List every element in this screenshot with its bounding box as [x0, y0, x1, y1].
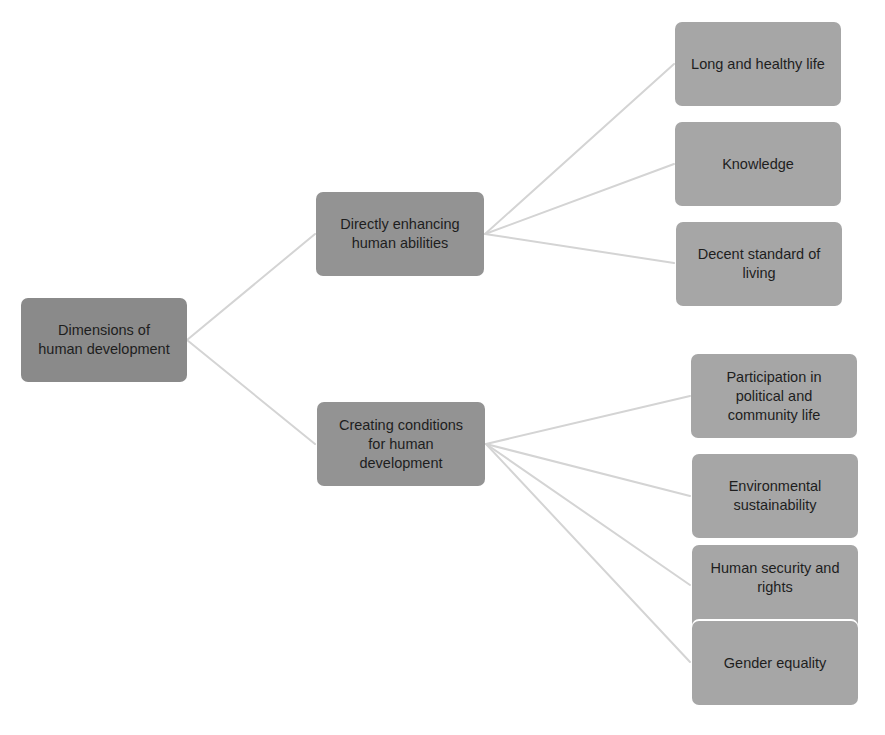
- root-node-label: Dimensions of human development: [38, 321, 169, 359]
- connector-branch-1-to-leaf-3: [485, 234, 674, 263]
- connector-branch-2-to-leaf-3: [486, 444, 690, 585]
- root-node: Dimensions of human development: [21, 298, 187, 382]
- leaf-node-decent-standard-of-living: Decent standard of living: [676, 222, 842, 306]
- connector-branch-2-to-leaf-1: [486, 396, 690, 444]
- leaf-node-label: Participation in political and community…: [726, 368, 821, 425]
- leaf-node-gender-equality: Gender equality: [692, 621, 858, 705]
- connector-root-to-branch-1: [187, 234, 315, 340]
- hierarchy-diagram: Dimensions of human development Directly…: [0, 0, 885, 735]
- leaf-node-label: Knowledge: [722, 155, 794, 174]
- connector-branch-1-to-leaf-1: [485, 64, 674, 234]
- connector-branch-1-to-leaf-2: [485, 164, 674, 234]
- connector-branch-2-to-leaf-2: [486, 444, 690, 496]
- leaf-node-participation: Participation in political and community…: [691, 354, 857, 438]
- leaf-node-human-security-rights: Human security and rights: [692, 545, 858, 629]
- leaf-node-label: Environmental sustainability: [729, 477, 822, 515]
- branch-node-label: Creating conditions for human developmen…: [339, 416, 463, 473]
- leaf-node-knowledge: Knowledge: [675, 122, 841, 206]
- leaf-node-label: Human security and rights: [711, 559, 840, 597]
- connector-branch-2-to-leaf-4: [486, 444, 690, 662]
- connector-root-to-branch-2: [187, 340, 315, 444]
- leaf-node-label: Gender equality: [724, 654, 826, 673]
- branch-node-creating-conditions: Creating conditions for human developmen…: [317, 402, 485, 486]
- leaf-node-label: Decent standard of living: [698, 245, 821, 283]
- leaf-node-label: Long and healthy life: [691, 55, 825, 74]
- leaf-node-long-healthy-life: Long and healthy life: [675, 22, 841, 106]
- branch-node-directly-enhancing: Directly enhancing human abilities: [316, 192, 484, 276]
- branch-node-label: Directly enhancing human abilities: [340, 215, 459, 253]
- leaf-node-environmental-sustainability: Environmental sustainability: [692, 454, 858, 538]
